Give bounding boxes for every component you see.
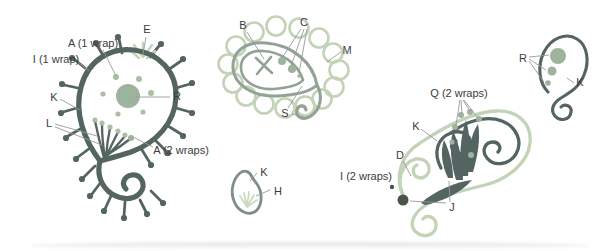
satin-dots-R: [545, 48, 566, 86]
diagram-canvas: EA (1 wrap)I (1 wrap)KLRA (2 wraps)BCMSK…: [0, 0, 609, 251]
stitch-label-K-left: K: [50, 91, 58, 103]
satin-dot-J: [398, 195, 409, 206]
stitch-label-D: D: [396, 149, 404, 161]
leader-line-K-small-0: [567, 78, 574, 83]
stitch-label-A1: A (1 wrap): [68, 37, 118, 49]
stitch-label-I2: I (2 wraps): [340, 170, 392, 182]
leader-line-H-0: [256, 190, 270, 196]
stitch-label-K-right: K: [412, 120, 420, 132]
page-edge-shadow: [30, 242, 589, 249]
stitch-label-R-left: R: [173, 90, 181, 102]
scallop-border-M: [219, 17, 349, 118]
leader-line-L-0: [55, 124, 97, 136]
paisley-stitch-diagram: EA (1 wrap)I (1 wrap)KLRA (2 wraps)BCMSK…: [0, 0, 609, 251]
small-teardrop-motif: [232, 171, 261, 213]
stitch-label-S: S: [281, 107, 288, 119]
leader-line-J-0: [449, 181, 450, 202]
leader-line-Q-1: [461, 100, 462, 114]
leader-line-I1-0: [78, 62, 89, 71]
stitch-label-Q: Q (2 wraps): [430, 87, 487, 99]
stitch-label-L: L: [46, 117, 52, 129]
leader-line-Q-2: [463, 100, 470, 111]
stitch-label-B: B: [239, 19, 246, 31]
leader-line-R-right-0: [529, 55, 549, 57]
seed-fan-H: [240, 192, 257, 207]
scalloped-paisley-motif: [219, 17, 349, 119]
paisley-outline-tail: [99, 161, 143, 199]
stitch-label-E: E: [143, 23, 150, 35]
stitch-label-I1: I (1 wrap): [33, 53, 79, 65]
stitch-label-A2: A (2 wraps): [153, 144, 209, 156]
cross-stitch-B: [256, 57, 272, 74]
stitch-label-H: H: [274, 185, 282, 197]
stitch-label-K-tear: K: [260, 166, 268, 178]
swirl-paisley-motif: [390, 109, 530, 236]
satin-circle-R: [116, 84, 140, 108]
stitch-label-K-small: K: [576, 76, 584, 88]
stitch-label-R-right: R: [519, 52, 527, 64]
colonial-knot-I2: [390, 185, 394, 189]
stitch-label-J: J: [449, 201, 455, 213]
stitch-label-M: M: [342, 44, 351, 56]
stitch-label-C: C: [300, 16, 308, 28]
